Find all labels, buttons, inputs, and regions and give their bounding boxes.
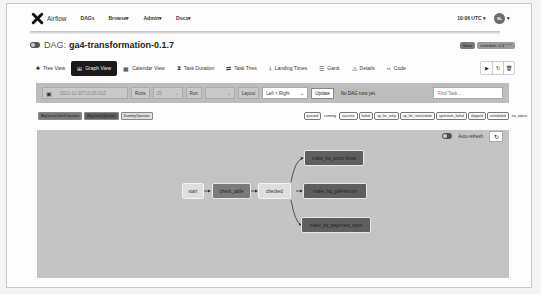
gantt-icon: ☰ bbox=[319, 65, 324, 72]
find-task-input[interactable] bbox=[433, 87, 503, 99]
state-up-for-reschedule[interactable]: up_for_reschedule bbox=[400, 112, 435, 120]
dag-header: DAG: ga4-transformation-0.1.7 None sched… bbox=[30, 38, 515, 52]
state-failed[interactable]: failed bbox=[359, 112, 373, 120]
owner-badge[interactable]: None bbox=[460, 42, 476, 49]
nav-admin[interactable]: Admin▾ bbox=[143, 15, 162, 21]
view-tabs: ♣Tree View ⊞Graph View ▦Calendar View ⧗T… bbox=[30, 60, 515, 76]
brand-name: Airflow bbox=[47, 15, 67, 22]
tab-tree-view[interactable]: ♣Tree View bbox=[30, 61, 71, 75]
layout-group: Layout bbox=[238, 87, 260, 99]
task-node-start[interactable]: start bbox=[182, 183, 204, 199]
legend-dummy-operator: DummyOperator bbox=[121, 112, 153, 120]
calendar-icon: ▣ bbox=[46, 90, 52, 97]
tab-label: Task Tries bbox=[234, 65, 257, 71]
refresh-dag-button[interactable]: ↻ bbox=[492, 62, 503, 74]
nav-docs-label: Docs bbox=[176, 15, 188, 21]
task-label: start bbox=[189, 189, 198, 194]
nav-right: 10:06 UTC ▾ SL ▾ bbox=[457, 13, 510, 24]
caret-down-icon: ▾ bbox=[159, 15, 162, 21]
runs-select[interactable]: 25⌄ bbox=[153, 87, 183, 99]
timezone-menu[interactable]: 10:06 UTC ▾ bbox=[457, 15, 486, 21]
graph-filter-bar: ▣ 2021-11-30T10:05:00Z Runs 25⌄ Run ⌄ La… bbox=[36, 83, 509, 103]
caret-down-icon: ▾ bbox=[483, 15, 486, 21]
state-skipped[interactable]: skipped bbox=[468, 112, 486, 120]
task-label: check_table bbox=[219, 189, 243, 194]
dag-badges: None schedule: 0 4 * * * bbox=[460, 42, 515, 49]
dag-prefix: DAG: bbox=[44, 40, 66, 50]
graph-canvas[interactable]: Auto-refresh ↻ start check_table checked… bbox=[37, 130, 509, 278]
nav-dags[interactable]: DAGs bbox=[81, 15, 95, 21]
tab-label: Code bbox=[394, 65, 406, 71]
state-scheduled[interactable]: scheduled bbox=[487, 112, 509, 120]
runs-group: Runs bbox=[131, 87, 150, 99]
task-node-check-table[interactable]: check_table bbox=[212, 183, 251, 199]
tab-gantt[interactable]: ☰Gantt bbox=[313, 61, 345, 76]
user-menu[interactable]: SL ▾ bbox=[494, 13, 510, 24]
task-node-make-bq-ga4-int-crm[interactable]: make_bq_ga4-int-crm bbox=[303, 183, 367, 199]
landing-icon: ⤓ bbox=[269, 65, 272, 72]
task-label: checked bbox=[266, 189, 283, 194]
page-title: ga4-transformation-0.1.7 bbox=[69, 40, 174, 50]
schedule-badge: schedule: 0 4 * * * bbox=[477, 42, 515, 49]
graph-icon: ⊞ bbox=[77, 65, 82, 72]
avatar: SL bbox=[494, 13, 505, 24]
task-node-make-bq-acom-flows[interactable]: make_bq_acom-flows bbox=[304, 150, 364, 166]
task-label: make_bq_acom-flows bbox=[312, 156, 356, 161]
tab-label: Task Duration bbox=[184, 65, 215, 71]
dag-actions: ▶ ↻ 🗑 bbox=[480, 61, 515, 75]
tab-label: Tree View bbox=[43, 65, 65, 71]
task-label: make_bq_pageview_apps bbox=[310, 223, 362, 228]
update-button[interactable]: Update bbox=[311, 88, 334, 99]
nav-admin-label: Admin bbox=[143, 15, 159, 21]
layout-select[interactable]: Left > Right⌄ bbox=[262, 87, 308, 99]
task-label: make_bq_ga4-int-crm bbox=[313, 189, 357, 194]
nav-browse[interactable]: Browse▾ bbox=[108, 15, 129, 21]
task-node-checked[interactable]: checked bbox=[258, 183, 291, 199]
graph-edges bbox=[37, 130, 509, 278]
state-legend: queued running success failed up_for_ret… bbox=[304, 112, 529, 120]
tab-label: Details bbox=[360, 65, 375, 71]
run-label: Run bbox=[190, 91, 198, 96]
run-select[interactable]: ⌄ bbox=[205, 87, 235, 99]
state-up-for-retry[interactable]: up_for_retry bbox=[374, 112, 399, 120]
tab-graph-view[interactable]: ⊞Graph View bbox=[71, 61, 117, 76]
base-date-value: 2021-11-30T10:05:00Z bbox=[60, 91, 106, 96]
dag-pause-toggle[interactable] bbox=[30, 42, 40, 48]
runs-value: 25 bbox=[157, 91, 162, 96]
tab-landing-times[interactable]: ⤓Landing Times bbox=[263, 61, 314, 76]
tries-icon: ⇄ bbox=[226, 65, 231, 72]
pinwheel-icon bbox=[30, 11, 44, 25]
tab-calendar-view[interactable]: ▦Calendar View bbox=[117, 61, 170, 76]
caret-down-icon: ▾ bbox=[188, 15, 191, 21]
runs-label: Runs bbox=[135, 91, 146, 96]
state-running[interactable]: running bbox=[322, 113, 338, 119]
layout-label: Layout bbox=[242, 91, 256, 96]
tab-label: Calendar View bbox=[132, 65, 164, 71]
code-icon: ‹› bbox=[387, 65, 391, 71]
layout-value: Left > Right bbox=[266, 91, 289, 96]
tab-label: Gantt bbox=[327, 65, 339, 71]
dag-run-status: No DAG runs yet. bbox=[341, 91, 376, 96]
legend-bigquery-operator: BigQueryOperator bbox=[84, 112, 118, 120]
state-upstream-failed[interactable]: upstream_failed bbox=[436, 112, 467, 120]
details-icon: ⚠ bbox=[352, 65, 357, 72]
calendar-icon: ▦ bbox=[123, 65, 129, 72]
task-node-make-bq-pageview-apps[interactable]: make_bq_pageview_apps bbox=[301, 217, 371, 233]
state-no-status[interactable]: no_status bbox=[510, 113, 529, 119]
state-queued[interactable]: queued bbox=[304, 112, 322, 120]
operator-legend: BigQueryCheckOperator BigQueryOperator D… bbox=[38, 112, 153, 120]
state-success[interactable]: success bbox=[339, 112, 358, 120]
trigger-dag-button[interactable]: ▶ bbox=[481, 62, 492, 74]
airflow-logo[interactable]: Airflow bbox=[30, 11, 67, 25]
hourglass-icon: ⧗ bbox=[177, 65, 181, 72]
base-date-input[interactable]: ▣ 2021-11-30T10:05:00Z bbox=[42, 87, 128, 99]
tab-details[interactable]: ⚠Details bbox=[346, 61, 381, 76]
delete-dag-button[interactable]: 🗑 bbox=[503, 62, 514, 74]
nav-docs[interactable]: Docs▾ bbox=[176, 15, 191, 21]
tab-task-duration[interactable]: ⧗Task Duration bbox=[171, 61, 221, 76]
tab-task-tries[interactable]: ⇄Task Tries bbox=[220, 61, 263, 76]
navbar: Airflow DAGs Browse▾ Admin▾ Docs▾ 10:06 … bbox=[30, 7, 510, 29]
tab-code[interactable]: ‹›Code bbox=[381, 61, 412, 75]
chevron-down-icon: ⌄ bbox=[227, 91, 231, 96]
tree-icon: ♣ bbox=[36, 65, 40, 71]
